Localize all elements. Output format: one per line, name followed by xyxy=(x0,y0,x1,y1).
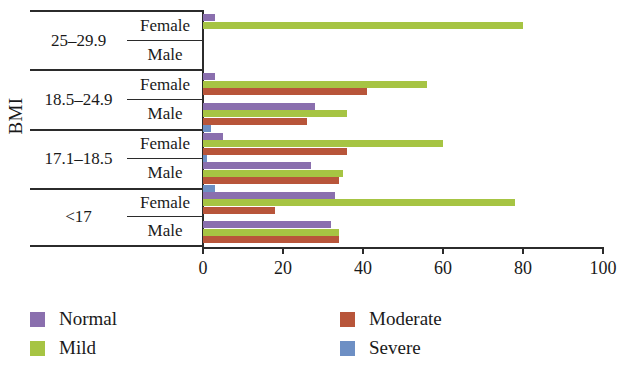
x-axis-tick xyxy=(282,247,284,254)
bar-normal xyxy=(203,192,335,199)
legend-item-moderate[interactable]: Moderate xyxy=(340,308,442,330)
bar-moderate xyxy=(203,148,347,155)
bmi-group-row: 25–29.9FemaleMale xyxy=(30,10,203,69)
bar-moderate xyxy=(203,236,339,243)
legend-swatch-mild xyxy=(30,341,45,356)
x-axis-tick-label: 80 xyxy=(514,258,532,279)
legend-item-mild[interactable]: Mild xyxy=(30,337,96,359)
bar-normal xyxy=(203,103,315,110)
x-axis-tick xyxy=(202,247,204,254)
bmi-group-label: <17 xyxy=(30,190,127,245)
x-axis-tick xyxy=(442,247,444,254)
sex-label-column: FemaleMale xyxy=(127,131,203,188)
bar-moderate xyxy=(203,177,339,184)
y-axis-title: BMI xyxy=(5,81,27,151)
bar-normal xyxy=(203,73,215,80)
sex-label-female: Female xyxy=(127,131,203,160)
x-axis-tick-label: 100 xyxy=(590,258,617,279)
bar-severe xyxy=(203,155,207,162)
bmi-group-row: <17FemaleMale xyxy=(30,188,203,247)
bar-normal xyxy=(203,133,223,140)
legend-swatch-severe xyxy=(340,341,355,356)
bar-mild xyxy=(203,110,347,117)
x-axis-tick xyxy=(602,247,604,254)
bmi-group-label: 25–29.9 xyxy=(30,12,127,69)
legend-label: Mild xyxy=(59,337,96,359)
x-axis-tick-label: 0 xyxy=(199,258,208,279)
bar-severe xyxy=(203,185,215,192)
bar-mild xyxy=(203,170,343,177)
bar-moderate xyxy=(203,207,275,214)
sex-label-female: Female xyxy=(127,190,203,218)
sex-label-female: Female xyxy=(127,12,203,41)
bar-mild xyxy=(203,199,515,206)
legend-item-normal[interactable]: Normal xyxy=(30,308,117,330)
bmi-group-row: 18.5–24.9FemaleMale xyxy=(30,69,203,128)
bmi-group-label: 17.1–18.5 xyxy=(30,131,127,188)
bar-normal xyxy=(203,162,311,169)
bar-mild xyxy=(203,140,443,147)
sex-label-column: FemaleMale xyxy=(127,190,203,245)
x-axis-tick xyxy=(362,247,364,254)
legend-label: Moderate xyxy=(369,308,442,330)
sex-label-male: Male xyxy=(127,100,203,129)
bar-normal xyxy=(203,221,331,228)
bar-severe xyxy=(203,125,211,132)
legend-swatch-moderate xyxy=(340,312,355,327)
bmi-bar-chart: BMI 25–29.9FemaleMale18.5–24.9FemaleMale… xyxy=(0,0,617,368)
plot-area: 020406080100 xyxy=(203,10,603,247)
bmi-group-row: 17.1–18.5FemaleMale xyxy=(30,129,203,188)
sex-label-male: Male xyxy=(127,41,203,70)
bar-mild xyxy=(203,81,427,88)
x-axis-line xyxy=(202,247,602,249)
bar-normal xyxy=(203,14,215,21)
sex-label-column: FemaleMale xyxy=(127,12,203,69)
sex-label-column: FemaleMale xyxy=(127,71,203,128)
x-axis-tick-label: 20 xyxy=(274,258,292,279)
category-label-table: 25–29.9FemaleMale18.5–24.9FemaleMale17.1… xyxy=(30,10,203,247)
legend-swatch-normal xyxy=(30,312,45,327)
legend-item-severe[interactable]: Severe xyxy=(340,337,421,359)
sex-label-female: Female xyxy=(127,71,203,100)
legend-label: Severe xyxy=(369,337,421,359)
bar-moderate xyxy=(203,118,307,125)
chart-legend: NormalModerateMildSevere xyxy=(30,308,570,366)
x-axis-tick-label: 40 xyxy=(354,258,372,279)
sex-label-male: Male xyxy=(127,159,203,188)
bar-mild xyxy=(203,22,523,29)
bar-moderate xyxy=(203,88,367,95)
x-axis-tick xyxy=(522,247,524,254)
sex-label-male: Male xyxy=(127,217,203,245)
bar-mild xyxy=(203,229,339,236)
bmi-group-label: 18.5–24.9 xyxy=(30,71,127,128)
legend-label: Normal xyxy=(59,308,117,330)
x-axis-tick-label: 60 xyxy=(434,258,452,279)
